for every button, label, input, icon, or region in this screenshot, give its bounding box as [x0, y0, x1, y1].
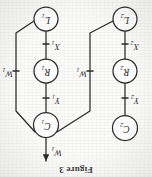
edge-label-x1: X1	[52, 40, 61, 51]
rotated-figure-container: Figure 3	[0, 0, 152, 177]
edge-label-y1: Y1	[52, 94, 60, 105]
edge-label-w1-right: W1	[3, 67, 14, 78]
edge-label-y2: Y2	[131, 94, 139, 105]
edge-label-w1-left: W1	[77, 67, 88, 78]
diagram-canvas	[0, 0, 152, 177]
node-label-r1: R1	[37, 65, 55, 76]
node-label-r2: R2	[116, 65, 134, 76]
figure-page: Figure 3	[0, 0, 152, 177]
edge-w1-right-return	[16, 21, 35, 132]
edge-label-x2: X2	[131, 40, 140, 51]
node-label-c1: C1	[37, 119, 55, 130]
arrow-label-w1-out: W1	[52, 146, 63, 157]
node-label-l2: L2	[116, 13, 134, 24]
node-label-c2: C2	[116, 122, 134, 133]
node-label-l1: L1	[37, 13, 55, 24]
